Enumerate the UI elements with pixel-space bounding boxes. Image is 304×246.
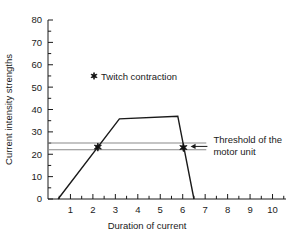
x-axis-title: Duration of current: [108, 220, 187, 231]
y-axis-tick-label: 20: [31, 149, 42, 160]
x-axis-tick-label: 9: [247, 204, 252, 215]
y-axis-title: Current intensity strengths: [3, 54, 14, 165]
twitch-contraction-marker: [180, 143, 187, 151]
y-axis-tick-label: 40: [31, 104, 42, 115]
x-axis-tick-label: 8: [225, 204, 230, 215]
legend-label-twitch-contraction: Twitch contraction: [101, 71, 177, 82]
axis-lines: [48, 20, 286, 199]
threshold-arrow-head-icon: [191, 144, 196, 149]
y-axis-tick-label: 10: [31, 171, 42, 182]
y-axis-tick-label: 30: [31, 126, 42, 137]
y-axis-tick-label: 70: [31, 37, 42, 48]
chart-container: 0102030405060708012345678910 Twitch cont…: [0, 0, 304, 246]
twitch-markers-group: [94, 143, 187, 152]
x-axis-tick-label: 3: [113, 204, 118, 215]
data-series-group: [58, 116, 194, 199]
x-axis-tick-label: 10: [267, 204, 278, 215]
legend-group: Twitch contraction: [91, 71, 177, 82]
x-axis-tick-label: 6: [180, 204, 185, 215]
chart-plot-area: 0102030405060708012345678910 Twitch cont…: [0, 0, 304, 246]
annotations-group: Threshold of themotor unit: [191, 134, 282, 156]
x-axis-tick-label: 1: [68, 204, 73, 215]
x-axis-tick-label: 5: [158, 204, 163, 215]
threshold-annotation-line-2: motor unit: [213, 146, 256, 157]
legend-star-icon: [91, 72, 97, 79]
x-axis-tick-label: 4: [135, 204, 140, 215]
y-axis-tick-label: 0: [37, 193, 42, 204]
threshold-annotation-line-1: Threshold of the: [213, 134, 282, 145]
y-axis-tick-label: 50: [31, 82, 42, 93]
y-axis-tick-label: 60: [31, 59, 42, 70]
x-axis-tick-label: 2: [90, 204, 95, 215]
y-axis-tick-label: 80: [31, 14, 42, 25]
data-line-current-intensity: [58, 116, 194, 199]
x-axis-tick-label: 7: [203, 204, 208, 215]
